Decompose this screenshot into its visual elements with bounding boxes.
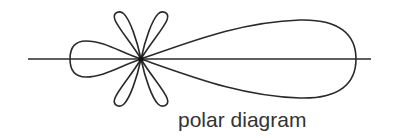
side-lobe-lower-right [141, 59, 168, 106]
diagram-caption: polar diagram [178, 108, 306, 132]
side-lobe-lower-left [114, 59, 141, 106]
side-lobe-upper-left [114, 12, 141, 59]
origin-point [138, 56, 143, 61]
side-lobe-upper-right [141, 12, 168, 59]
